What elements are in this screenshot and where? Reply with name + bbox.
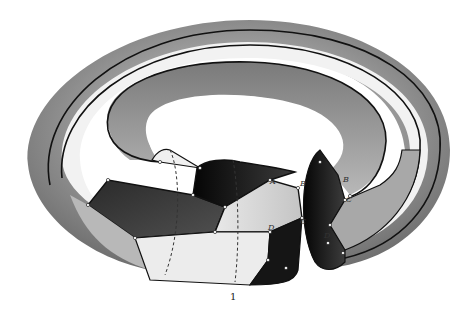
cut-label: 1 <box>230 291 236 302</box>
torus-map-diagram: A B C D B C D 1 <box>0 0 464 315</box>
label-C-right: C <box>346 195 352 204</box>
label-B-left: B <box>299 179 306 188</box>
label-D-right: D <box>323 231 331 240</box>
label-D-left: D <box>267 223 275 232</box>
label-B-right: B <box>342 175 349 184</box>
label-C-left: C <box>300 217 306 226</box>
label-A: A <box>269 177 276 186</box>
